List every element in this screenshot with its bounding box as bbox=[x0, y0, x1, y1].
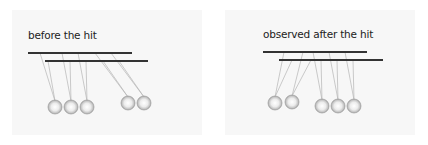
ball-after-1 bbox=[285, 95, 299, 109]
string-back-before-4 bbox=[119, 61, 144, 97]
ball-before-2 bbox=[80, 100, 94, 114]
string-after-1 bbox=[292, 60, 311, 96]
ball-after-2 bbox=[315, 99, 329, 113]
ball-before-4 bbox=[137, 96, 151, 110]
ball-after-4 bbox=[347, 99, 361, 113]
string-back-after-0 bbox=[275, 52, 284, 97]
ball-after-3 bbox=[331, 99, 345, 113]
ball-after-0 bbox=[268, 96, 282, 110]
pendulum-balls bbox=[48, 95, 361, 114]
ball-before-1 bbox=[64, 100, 78, 114]
string-after-0 bbox=[275, 60, 292, 97]
ball-before-0 bbox=[48, 100, 62, 114]
string-back-after-1 bbox=[292, 52, 303, 96]
newtons-cradle-diagram bbox=[0, 0, 428, 145]
ball-before-3 bbox=[121, 96, 135, 110]
string-back-before-3 bbox=[103, 61, 128, 97]
